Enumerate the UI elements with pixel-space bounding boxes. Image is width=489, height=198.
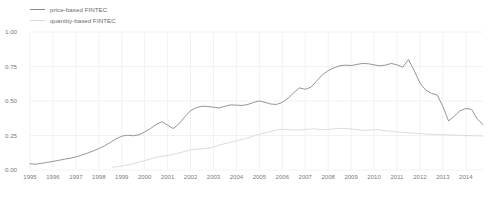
y-tick-label: 1.00	[5, 28, 17, 35]
y-tick-label: 0.50	[5, 97, 17, 104]
x-tick-label: 2009	[344, 174, 357, 180]
y-tick-label: 0.75	[5, 63, 17, 70]
y-tick-label: 0.25	[5, 132, 17, 139]
x-tick-label: 2011	[391, 174, 404, 180]
series-line-quantity-based	[113, 128, 483, 167]
x-tick-label: 2004	[230, 174, 243, 180]
x-tick-label: 2010	[367, 174, 380, 180]
x-tick-label: 2014	[459, 174, 472, 180]
x-tick-label: 1999	[115, 174, 128, 180]
series-lines	[30, 60, 483, 168]
series-line-price-based	[30, 60, 483, 165]
chart-plot-area	[0, 0, 489, 198]
x-tick-label: 1997	[69, 174, 82, 180]
x-tick-label: 2006	[276, 174, 289, 180]
legend-label-price-based: price-based FINTEC	[50, 6, 107, 13]
x-tick-label: 1998	[92, 174, 105, 180]
x-tick-label: 2007	[299, 174, 312, 180]
legend-swatch-price-based	[30, 9, 45, 10]
x-tick-label: 2001	[161, 174, 174, 180]
chart-legend: price-based FINTEC quantity-based FINTEC	[30, 5, 116, 25]
x-tick-label: 2005	[253, 174, 266, 180]
x-tick-label: 1996	[46, 174, 59, 180]
x-tick-label: 2013	[436, 174, 449, 180]
x-tick-label: 2003	[207, 174, 220, 180]
x-tick-label: 1995	[23, 174, 36, 180]
legend-item-quantity-based: quantity-based FINTEC	[30, 16, 116, 25]
x-tick-label: 2000	[138, 174, 151, 180]
x-tick-label: 2002	[184, 174, 197, 180]
x-tick-label: 2008	[321, 174, 334, 180]
y-tick-label: 0.00	[5, 166, 17, 173]
fintec-line-chart: price-based FINTEC quantity-based FINTEC…	[0, 0, 489, 198]
legend-item-price-based: price-based FINTEC	[30, 5, 116, 14]
x-tick-label: 2012	[413, 174, 426, 180]
legend-swatch-quantity-based	[30, 20, 45, 21]
legend-label-quantity-based: quantity-based FINTEC	[50, 17, 116, 24]
